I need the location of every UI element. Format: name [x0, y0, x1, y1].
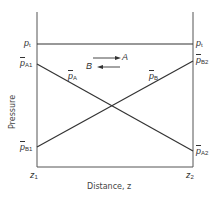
y-axis-title: Pressure	[9, 95, 17, 129]
partial-pressure-A-line	[37, 64, 193, 151]
left-total-pressure-label: pt	[24, 39, 31, 48]
diagram-canvas	[0, 0, 223, 198]
left-pA1-label: pA1	[20, 59, 32, 68]
arrow-right-icon	[93, 56, 121, 60]
pressure-distance-diagram: Pressure Distance, z z1 z2 pt pA1 pB1 pt…	[0, 0, 223, 198]
x-axis-title: Distance, z	[87, 183, 131, 191]
flux-A-label: A	[122, 53, 128, 62]
z2-label: z2	[186, 171, 194, 180]
partial-pressure-B-line	[37, 61, 193, 147]
pA-line-label: pA	[68, 72, 77, 81]
right-pA2-label: pA2	[196, 147, 208, 156]
flux-B-label: B	[86, 62, 92, 71]
z1-label: z1	[30, 171, 38, 180]
right-total-pressure-label: pt	[196, 39, 203, 48]
left-pB1-label: pB1	[20, 143, 32, 152]
pB-line-label: pB	[149, 72, 158, 81]
right-pB2-label: pB2	[196, 56, 208, 65]
arrow-left-icon	[97, 65, 120, 69]
